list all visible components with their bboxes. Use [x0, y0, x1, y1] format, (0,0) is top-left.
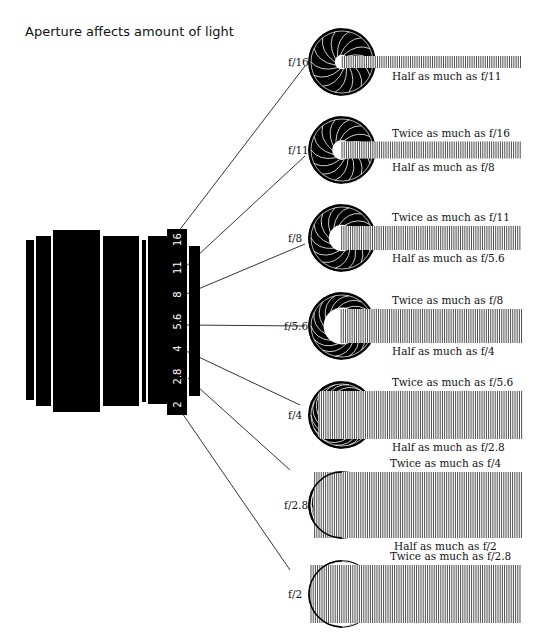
fstop-label: f/5.6 — [284, 320, 308, 332]
scale-number: 4 — [172, 340, 183, 358]
scale-number: 5.6 — [172, 313, 183, 331]
caption-twice: Twice as much as f/11 — [392, 211, 510, 223]
caption-half: Half as much as f/8 — [392, 161, 495, 173]
iris-f16 — [309, 29, 522, 95]
caption-half: Half as much as f/4 — [392, 345, 495, 357]
fstop-label: f/4 — [288, 409, 302, 421]
iris-f2 — [309, 561, 522, 627]
caption-half: Half as much as f/2.8 — [392, 441, 505, 453]
caption-twice: Twice as much as f/5.6 — [392, 376, 513, 388]
iris-f2-8 — [309, 472, 522, 538]
fstop-label: f/16 — [288, 56, 309, 68]
scale-number: 2 — [172, 396, 183, 414]
scale-number: 16 — [172, 231, 183, 249]
caption-half: Half as much as f/5.6 — [392, 252, 505, 264]
caption-twice: Twice as much as f/2.8 — [390, 550, 511, 562]
iris-f4 — [309, 382, 522, 448]
fstop-label: f/2 — [288, 588, 302, 600]
scale-number: 11 — [172, 259, 183, 277]
fstop-label: f/8 — [288, 232, 302, 244]
iris-diagrams — [309, 29, 522, 627]
fstop-label: f/11 — [288, 144, 309, 156]
fstop-label: f/2.8 — [284, 499, 308, 511]
caption-twice: Twice as much as f/16 — [392, 127, 510, 139]
scale-number: 8 — [172, 286, 183, 304]
scale-number: 2.8 — [172, 368, 183, 386]
caption-half: Half as much as f/11 — [392, 70, 501, 82]
caption-twice: Twice as much as f/8 — [392, 294, 503, 306]
caption-twice: Twice as much as f/4 — [390, 457, 501, 469]
